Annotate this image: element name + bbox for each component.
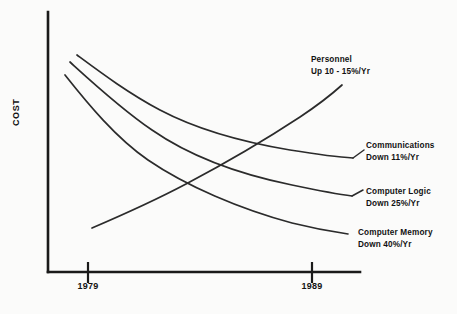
series-group [65,55,353,234]
series-annotation-personnel: Personnel Up 10 - 15%/Yr [311,54,370,77]
series-annotation-computer-memory-name: Computer Memory [358,228,433,237]
series-annotation-communications-rate: Down 11%/Yr [366,152,435,164]
x-tick-label-1979: 1979 [77,281,98,291]
cost-trend-chart: COST 1979 1989 Personnel Up 10 - 15%/Yr … [0,0,457,314]
series-annotation-computer-memory-rate: Down 40%/Yr [358,239,433,251]
curve-personnel [92,85,342,228]
series-annotation-communications: Communications Down 11%/Yr [366,140,435,163]
leader-communications [353,150,364,158]
series-annotation-computer-memory: Computer Memory Down 40%/Yr [358,227,433,250]
series-annotation-computer-logic: Computer Logic Down 25%/Yr [366,186,431,209]
annotation-leaders [352,150,364,196]
series-annotation-personnel-rate: Up 10 - 15%/Yr [311,66,370,78]
x-tick-label-1989: 1989 [301,281,322,291]
curve-computer-memory [65,75,348,234]
series-annotation-personnel-name: Personnel [311,55,352,64]
axes-group [48,12,360,283]
series-annotation-computer-logic-name: Computer Logic [366,187,431,196]
series-annotation-communications-name: Communications [366,141,435,150]
leader-computer-logic [352,190,363,196]
y-axis-label: COST [11,99,21,126]
series-annotation-computer-logic-rate: Down 25%/Yr [366,198,431,210]
